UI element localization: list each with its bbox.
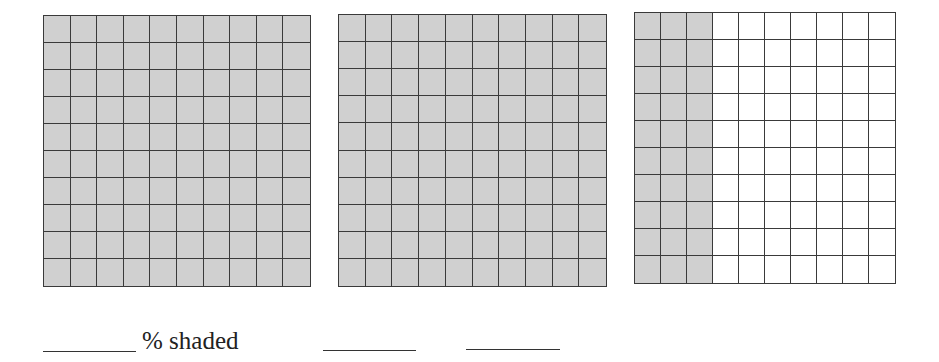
unshaded-square xyxy=(713,175,739,202)
unshaded-square xyxy=(739,94,765,121)
shaded-square xyxy=(44,70,71,97)
unshaded-square xyxy=(765,67,791,94)
shaded-square xyxy=(204,16,231,43)
shaded-square xyxy=(553,178,580,205)
answer-blank-3[interactable] xyxy=(466,349,560,350)
unshaded-square xyxy=(817,121,843,148)
unshaded-square xyxy=(791,256,817,283)
unshaded-square xyxy=(765,175,791,202)
shaded-square xyxy=(553,42,580,69)
shaded-square xyxy=(579,178,606,205)
shaded-square xyxy=(635,121,661,148)
shaded-square xyxy=(473,178,500,205)
shaded-square xyxy=(283,205,310,232)
shaded-square xyxy=(124,151,151,178)
shaded-square xyxy=(661,67,687,94)
shaded-square xyxy=(150,232,177,259)
shaded-square xyxy=(230,97,257,124)
shaded-square xyxy=(446,69,473,96)
shaded-square xyxy=(230,124,257,151)
unshaded-square xyxy=(765,121,791,148)
shaded-square xyxy=(446,151,473,178)
shaded-square xyxy=(392,96,419,123)
shaded-square xyxy=(97,232,124,259)
shaded-square xyxy=(553,15,580,42)
unshaded-square xyxy=(765,13,791,40)
shaded-square xyxy=(635,148,661,175)
shaded-square xyxy=(526,15,553,42)
shaded-square xyxy=(446,178,473,205)
unshaded-square xyxy=(869,13,895,40)
shaded-square xyxy=(71,151,98,178)
shaded-square xyxy=(177,43,204,70)
shaded-square xyxy=(392,123,419,150)
shaded-square xyxy=(446,205,473,232)
shaded-square xyxy=(230,151,257,178)
shaded-square xyxy=(635,202,661,229)
shaded-square xyxy=(419,15,446,42)
unshaded-square xyxy=(791,202,817,229)
shaded-square xyxy=(635,67,661,94)
shaded-square xyxy=(71,178,98,205)
shaded-square xyxy=(339,205,366,232)
shaded-square xyxy=(553,205,580,232)
shaded-square xyxy=(526,69,553,96)
shaded-square xyxy=(257,151,284,178)
unshaded-square xyxy=(765,202,791,229)
shaded-square xyxy=(499,96,526,123)
shaded-square xyxy=(124,259,151,286)
shaded-square xyxy=(204,151,231,178)
shaded-square xyxy=(473,205,500,232)
shaded-square xyxy=(499,259,526,286)
shaded-square xyxy=(419,42,446,69)
shaded-square xyxy=(339,42,366,69)
shaded-square xyxy=(366,232,393,259)
unshaded-square xyxy=(739,121,765,148)
shaded-square xyxy=(473,123,500,150)
shaded-square xyxy=(257,124,284,151)
shaded-square xyxy=(339,15,366,42)
shaded-square xyxy=(124,70,151,97)
shaded-square xyxy=(177,97,204,124)
shaded-square xyxy=(661,13,687,40)
shaded-square xyxy=(257,205,284,232)
shaded-square xyxy=(661,229,687,256)
shaded-square xyxy=(283,70,310,97)
shaded-square xyxy=(257,43,284,70)
shaded-square xyxy=(392,69,419,96)
unshaded-square xyxy=(817,13,843,40)
shaded-square xyxy=(97,70,124,97)
unshaded-square xyxy=(791,175,817,202)
answer-blank-1[interactable] xyxy=(43,351,136,352)
shaded-square xyxy=(71,124,98,151)
unshaded-square xyxy=(791,13,817,40)
shaded-square xyxy=(150,124,177,151)
shaded-square xyxy=(499,15,526,42)
shaded-square xyxy=(204,43,231,70)
shaded-square xyxy=(392,178,419,205)
shaded-square xyxy=(44,259,71,286)
shaded-square xyxy=(687,13,713,40)
answer-blank-2[interactable] xyxy=(323,350,416,351)
unshaded-square xyxy=(843,202,869,229)
unshaded-square xyxy=(817,40,843,67)
unshaded-square xyxy=(791,229,817,256)
shaded-square xyxy=(124,43,151,70)
shaded-square xyxy=(230,43,257,70)
unshaded-square xyxy=(713,40,739,67)
shaded-square xyxy=(257,259,284,286)
shaded-square xyxy=(150,151,177,178)
unshaded-square xyxy=(739,13,765,40)
shaded-square xyxy=(257,232,284,259)
unshaded-square xyxy=(843,121,869,148)
shaded-square xyxy=(230,232,257,259)
shaded-square xyxy=(366,205,393,232)
shaded-square xyxy=(579,69,606,96)
shaded-square xyxy=(499,205,526,232)
shaded-square xyxy=(150,70,177,97)
unshaded-square xyxy=(713,13,739,40)
shaded-square xyxy=(499,151,526,178)
shaded-square xyxy=(392,259,419,286)
shaded-square xyxy=(150,178,177,205)
shaded-square xyxy=(579,42,606,69)
